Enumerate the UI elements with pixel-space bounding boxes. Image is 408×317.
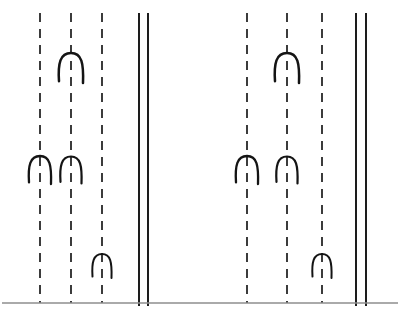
figure-root	[0, 0, 408, 317]
notation-diagram-canvas	[0, 0, 408, 317]
solid-rules-layer	[139, 13, 366, 306]
